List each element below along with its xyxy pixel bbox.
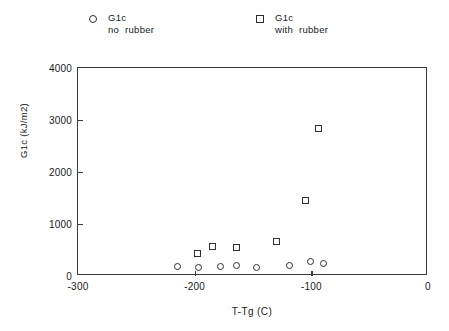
y-axis-tick-label: 0	[66, 271, 72, 282]
legend-label-with-rubber: G1cwith rubber	[275, 12, 328, 35]
data-point-square	[302, 197, 309, 204]
legend-label-line2: no rubber	[108, 24, 154, 36]
x-axis-tick-label: -100	[301, 281, 322, 292]
x-axis-tick-label: 0	[425, 281, 431, 292]
data-point-circle	[195, 264, 202, 271]
x-axis-tick	[195, 271, 196, 276]
circle-marker-icon	[88, 14, 108, 26]
legend-label-no-rubber: G1cno rubber	[108, 12, 154, 35]
legend-label-line1: G1c	[108, 12, 126, 23]
square-marker-icon	[255, 14, 275, 26]
y-axis-tick	[78, 120, 83, 121]
x-axis-tick-label: -300	[68, 281, 89, 292]
data-point-circle	[320, 260, 327, 267]
legend-label-line1: G1c	[275, 12, 293, 23]
legend-entry-with-rubber: G1cwith rubber	[255, 12, 328, 35]
x-axis-title: T-Tg (C)	[77, 306, 427, 317]
y-axis-tick	[78, 172, 83, 173]
y-axis-title: G1c (kJ/m2)	[18, 71, 29, 191]
scatter-plot-figure: G1cno rubber G1cwith rubber 010002000300…	[0, 0, 449, 331]
data-point-circle	[253, 264, 260, 271]
data-point-square	[315, 125, 322, 132]
y-axis-tick	[78, 224, 83, 225]
data-point-circle	[217, 263, 224, 270]
data-point-square	[233, 244, 240, 251]
data-point-square	[209, 243, 216, 250]
data-point-circle	[233, 262, 240, 269]
legend-label-line2: with rubber	[275, 24, 328, 36]
x-axis-tick	[311, 271, 312, 276]
data-point-circle	[286, 262, 293, 269]
y-axis-tick-label: 1000	[49, 219, 72, 230]
chart-legend: G1cno rubber G1cwith rubber	[0, 0, 449, 52]
data-point-circle	[307, 258, 314, 265]
plot-area: 01000200030004000-300-200-1000	[77, 67, 427, 275]
y-axis-tick-label: 3000	[49, 115, 72, 126]
data-point-square	[194, 250, 201, 257]
y-axis-tick-label: 2000	[49, 167, 72, 178]
y-axis-tick-label: 4000	[49, 63, 72, 74]
data-point-square	[273, 238, 280, 245]
legend-entry-no-rubber: G1cno rubber	[88, 12, 154, 35]
x-axis-tick-label: -200	[184, 281, 205, 292]
data-point-circle	[174, 263, 181, 270]
